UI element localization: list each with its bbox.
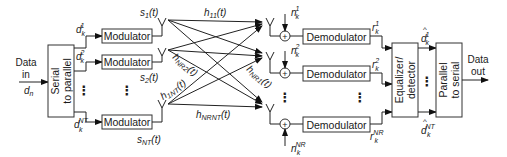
- adder-1-symbol: +: [282, 32, 287, 42]
- r-2-line: [370, 73, 392, 84]
- dhat-1-hat: ^: [423, 25, 427, 34]
- s2p-ellipsis: ⋮: [78, 83, 91, 98]
- snt-label: sNT(t): [137, 134, 161, 146]
- path-hnr2: [168, 50, 262, 104]
- rx-ellipsis: ⋮: [279, 90, 292, 105]
- tx-antenna-1-icon: [152, 18, 166, 36]
- adder-nr-symbol: +: [282, 120, 287, 130]
- s2-label: s2(t): [140, 72, 158, 84]
- rx-antenna-2-icon: [266, 52, 280, 73]
- equalizer-label-1: Equalizer/: [393, 57, 405, 104]
- modulator-ellipsis: ⋮: [121, 83, 134, 98]
- p2s-label-1: Parallel: [437, 62, 449, 97]
- path-h11: [168, 20, 262, 22]
- p2s-label-2: to serial: [449, 62, 461, 99]
- demodulator-1: Demodulator: [303, 29, 370, 44]
- demodulator-2-label: Demodulator: [306, 68, 367, 80]
- demodulator-nr: Demodulator: [303, 117, 370, 132]
- data-out-label-1: Data: [467, 54, 489, 65]
- rx-antenna-nr-icon: [266, 104, 280, 124]
- demodulator-nr-label: Demodulator: [306, 119, 367, 131]
- r-k-1-label: r1k: [372, 20, 379, 35]
- input-symbol: dn: [24, 85, 34, 97]
- r-k-2-label: r2k: [372, 57, 379, 72]
- mimo-system-diagram: Data in dn Serial to parallel d1k d2k dN…: [0, 0, 507, 157]
- tx-antenna-2-icon: [152, 48, 166, 62]
- r-k-nr-label: rNRk: [370, 129, 383, 144]
- modulator-nt-label: Modulator: [104, 116, 151, 128]
- stream-1-line: [74, 36, 102, 48]
- rx-branch-nr: + nNRk: [266, 104, 306, 156]
- path-h22: [168, 50, 262, 56]
- channel-paths: h11(t) hNR2(t) hNR1(t) h1NT(t) hNRNT(t): [158, 7, 274, 121]
- s2p-label-2: to parallel: [61, 58, 73, 104]
- estimates: ⋮ d1k ^ dNTk ^: [418, 25, 436, 138]
- data-output: Data out: [462, 54, 489, 80]
- h1nt-label: h1NT(t): [158, 77, 188, 102]
- d-k-nt-label: dNTk: [74, 117, 89, 133]
- adder-2-symbol: +: [282, 69, 287, 79]
- d-k-2-label: d2k: [76, 49, 85, 64]
- equalizer-label-2: detector: [405, 61, 417, 99]
- hnr2-label: hNR2(t): [170, 51, 200, 79]
- demodulator-1-label: Demodulator: [306, 31, 367, 43]
- data-in-label-2: in: [22, 69, 30, 80]
- r-nr-line: [370, 112, 392, 124]
- dhat-nt-hat: ^: [423, 117, 427, 126]
- path-hnrnt: [168, 104, 262, 107]
- data-out-label-2: out: [471, 66, 485, 77]
- n-k-nr-label: nNRk: [291, 141, 306, 156]
- s2p-label-1: Serial: [49, 68, 61, 95]
- n-k-1-label: n1k: [291, 5, 300, 20]
- demod-outputs: r1k r2k rNRk: [370, 20, 392, 144]
- stream-2-line: [74, 62, 102, 71]
- parallel-to-serial-block: Parallel to serial: [436, 43, 462, 117]
- rx-antenna-1-icon: [266, 18, 280, 36]
- h11-label: h11(t): [204, 7, 226, 19]
- d-k-1-label: d1k: [76, 22, 85, 37]
- s1-label: s1(t): [140, 7, 158, 19]
- s2p-outputs: d1k d2k dNTk ⋮: [74, 22, 102, 133]
- r-1-line: [370, 36, 392, 48]
- modulator-1-label: Modulator: [104, 30, 151, 42]
- hnrnt-label: hNRNT(t): [196, 109, 230, 121]
- serial-to-parallel-block: Serial to parallel: [48, 45, 74, 117]
- modulator-2-label: Modulator: [104, 56, 151, 68]
- demodulator-2: Demodulator: [303, 66, 370, 81]
- data-in-label-1: Data: [15, 57, 37, 68]
- path-h12: [168, 24, 262, 50]
- demodulator-ellipsis: ⋮: [354, 90, 367, 105]
- tx-antenna-nt-icon: [152, 100, 166, 122]
- estimates-ellipsis: ⋮: [421, 74, 434, 89]
- rx-branch-1: + n1k: [266, 5, 303, 42]
- rx-branch-2: + n2k: [266, 43, 303, 79]
- equalizer-detector-block: Equalizer/ detector: [392, 43, 418, 117]
- modulator-1: Modulator: [102, 29, 152, 43]
- n-k-2-label: n2k: [291, 43, 300, 58]
- modulator-2: Modulator: [102, 55, 152, 69]
- modulator-nt: Modulator: [102, 115, 152, 129]
- data-input: Data in dn: [15, 57, 48, 97]
